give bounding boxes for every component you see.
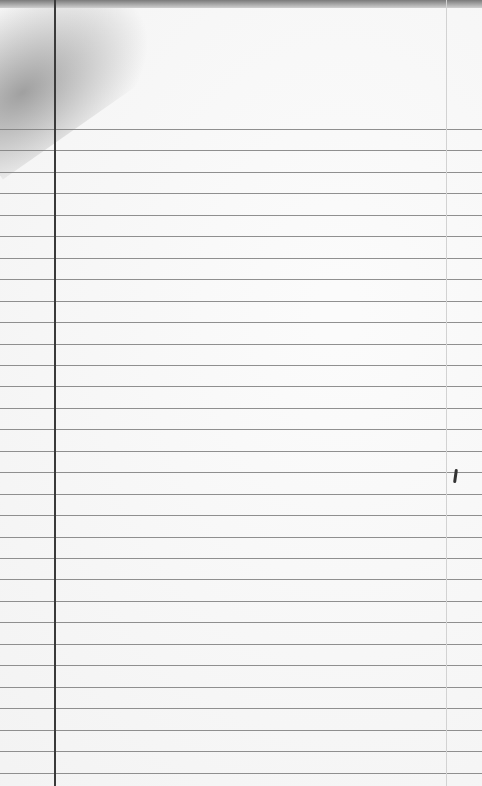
lined-paper [0, 0, 482, 786]
top-edge [0, 0, 482, 8]
ruled-line [0, 708, 482, 709]
ruled-line [0, 579, 482, 580]
ruled-line [0, 150, 482, 151]
ruled-line [0, 193, 482, 194]
ruled-line [0, 622, 482, 623]
ruled-line [0, 472, 482, 473]
ruled-line [0, 429, 482, 430]
ruled-line [0, 537, 482, 538]
ruled-line [0, 215, 482, 216]
ruled-line [0, 687, 482, 688]
ruled-line [0, 515, 482, 516]
left-margin-line [54, 0, 56, 786]
ruled-line [0, 665, 482, 666]
ruled-line [0, 451, 482, 452]
ruled-line [0, 644, 482, 645]
ruled-line [0, 558, 482, 559]
ruled-line [0, 601, 482, 602]
ruled-line [0, 494, 482, 495]
ruled-line [0, 408, 482, 409]
ruled-line [0, 301, 482, 302]
ruled-line [0, 258, 482, 259]
ruled-line [0, 365, 482, 366]
ruled-line [0, 279, 482, 280]
ruled-line [0, 236, 482, 237]
ruled-line [0, 129, 482, 130]
ruled-line [0, 344, 482, 345]
ruled-line [0, 322, 482, 323]
ruled-line [0, 386, 482, 387]
right-margin-line [446, 0, 447, 786]
ruled-line [0, 751, 482, 752]
ruled-line [0, 730, 482, 731]
ruled-line [0, 773, 482, 774]
ruled-line [0, 172, 482, 173]
